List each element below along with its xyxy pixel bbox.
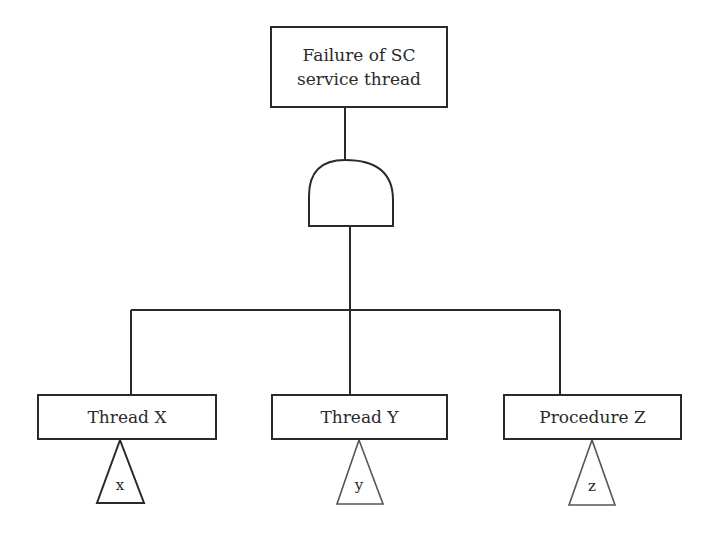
event-label: Procedure Z <box>539 405 646 429</box>
event-label: Thread Y <box>320 405 398 429</box>
transfer-triangle-icon-z <box>569 440 615 505</box>
fault-tree-diagram: Failure of SC service thread Thread X Th… <box>0 0 712 540</box>
transfer-triangle-icon-y <box>337 440 383 504</box>
event-box-procedure-z: Procedure Z <box>503 394 682 440</box>
event-label: Thread X <box>88 405 167 429</box>
event-box-thread-y: Thread Y <box>271 394 448 440</box>
top-event-box: Failure of SC service thread <box>270 26 448 108</box>
transfer-label-x: x <box>105 476 135 494</box>
top-event-label-line1: Failure of SC <box>297 43 421 67</box>
transfer-label-y: y <box>344 476 374 494</box>
and-gate-icon <box>309 160 393 226</box>
event-box-thread-x: Thread X <box>37 394 217 440</box>
top-event-label-line2: service thread <box>297 67 421 91</box>
transfer-label-z: z <box>577 477 607 495</box>
